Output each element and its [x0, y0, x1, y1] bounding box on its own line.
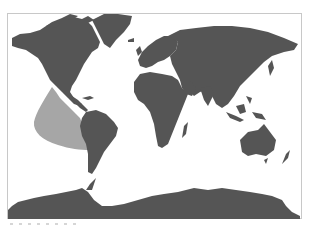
- dot: [19, 223, 22, 225]
- world-map: [0, 0, 310, 231]
- asia: [168, 26, 298, 108]
- distribution-range: [34, 87, 90, 150]
- dot: [73, 223, 76, 225]
- dot: [46, 223, 49, 225]
- dot: [10, 223, 13, 225]
- madagascar: [182, 122, 188, 138]
- antarctica: [8, 188, 300, 219]
- southeast-asia-islands: [226, 96, 266, 122]
- south-america: [80, 110, 118, 174]
- antarctic-peninsula: [86, 178, 96, 190]
- dot: [37, 223, 40, 225]
- caribbean-islands: [82, 96, 94, 100]
- dot: [55, 223, 58, 225]
- australia: [240, 124, 276, 156]
- british-isles: [128, 38, 142, 56]
- dot: [28, 223, 31, 225]
- footer-dots: [10, 223, 76, 226]
- africa: [134, 72, 188, 148]
- dot: [64, 223, 67, 225]
- japan: [268, 60, 274, 76]
